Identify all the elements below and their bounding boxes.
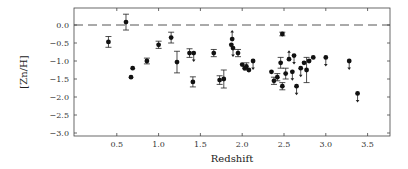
data-point (302, 60, 307, 65)
data-point (187, 51, 192, 56)
data-point (355, 91, 360, 96)
y-tick-label: −1.5 (50, 75, 69, 84)
arrow-down-icon (251, 68, 255, 71)
y-tick-label: 0.0 (56, 21, 69, 30)
data-point (311, 55, 316, 60)
plot-frame (74, 8, 390, 136)
arrow-down-icon (292, 62, 296, 65)
data-point (236, 51, 241, 56)
x-tick-label: 0.5 (110, 140, 123, 149)
data-point (287, 57, 292, 62)
arrow-up-icon (287, 50, 291, 53)
data-points (105, 14, 360, 102)
x-tick-label: 3.5 (361, 140, 374, 149)
x-tick-label: 1.0 (152, 140, 165, 149)
arrow-down-icon (291, 78, 295, 81)
arrow-down-icon (324, 64, 328, 67)
y-tick-label: −3.0 (50, 129, 69, 138)
data-point (347, 59, 352, 64)
zn-metallicity-scatter-chart: 0.51.01.52.02.53.03.5 0.0−0.5−1.0−1.5−2.… (0, 0, 408, 169)
arrow-down-icon (356, 100, 360, 103)
x-tick-label: 2.5 (278, 140, 291, 149)
data-point (211, 51, 216, 56)
data-point (231, 46, 236, 51)
data-point (129, 75, 134, 80)
data-point (304, 68, 309, 73)
data-point (230, 37, 235, 42)
data-point (323, 55, 328, 60)
data-point (294, 84, 299, 89)
data-point (280, 84, 285, 89)
y-tick-label: −2.0 (50, 93, 69, 102)
data-point (217, 78, 222, 83)
arrow-up-icon (230, 30, 234, 33)
data-point (278, 60, 283, 65)
data-point (283, 71, 288, 76)
data-point (106, 40, 111, 45)
y-tick-label: −1.0 (50, 57, 69, 66)
data-point (298, 66, 303, 71)
y-tick-label: −2.5 (50, 111, 69, 120)
x-axis-ticks: 0.51.01.52.02.53.03.5 (110, 8, 374, 149)
data-point (221, 77, 226, 82)
y-tick-label: −0.5 (50, 39, 69, 48)
arrow-down-icon (347, 68, 351, 71)
data-point (190, 79, 195, 84)
data-point (124, 20, 129, 25)
arrow-down-icon (295, 93, 299, 96)
arrow-down-icon (231, 55, 235, 58)
data-point (191, 51, 196, 56)
data-point (275, 75, 280, 80)
x-axis-label: Redshift (211, 153, 253, 164)
arrow-down-icon (299, 75, 303, 78)
data-point (144, 59, 149, 64)
y-axis-label: [Zn/H] (18, 55, 29, 88)
data-point (130, 66, 135, 71)
data-point (156, 42, 161, 47)
data-point (269, 69, 274, 74)
arrow-down-icon (192, 60, 196, 63)
data-point (280, 32, 285, 37)
data-point (307, 59, 312, 64)
data-point (175, 60, 180, 65)
x-tick-label: 2.0 (236, 140, 249, 149)
data-point (251, 59, 256, 64)
data-point (290, 69, 295, 74)
data-point (246, 68, 251, 73)
data-point (292, 53, 297, 58)
x-tick-label: 3.0 (319, 140, 332, 149)
data-point (169, 35, 174, 40)
x-tick-label: 1.5 (194, 140, 207, 149)
